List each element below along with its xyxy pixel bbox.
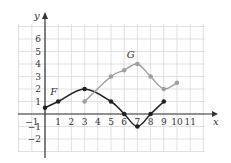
y-tick-label: 3 (35, 72, 41, 82)
curve-F (45, 89, 164, 127)
x-axis-label: x (213, 116, 219, 127)
y-tick-label: 2 (35, 84, 41, 94)
data-point (135, 62, 140, 67)
x-tick-label: 4 (95, 117, 101, 127)
data-point (148, 112, 153, 117)
x-tick-label: 8 (148, 117, 154, 127)
data-point (82, 87, 87, 92)
data-point (122, 68, 127, 73)
x-tick-label: 6 (121, 117, 127, 127)
y-tick-label: 4 (35, 59, 41, 69)
y-axis-label: y (33, 10, 40, 21)
function-graph: −11234567891011−2−1123456 FG x y (0, 0, 231, 163)
data-point (109, 74, 114, 79)
data-point (43, 105, 48, 110)
data-point (56, 99, 61, 104)
x-tick-label: 1 (55, 117, 61, 127)
data-point (148, 74, 153, 79)
grid-lines (18, 24, 205, 152)
y-tick-label: −1 (28, 122, 41, 132)
x-tick-label: 2 (69, 117, 75, 127)
data-point (135, 124, 140, 129)
y-tick-label: −2 (28, 134, 41, 144)
series-label-G: G (127, 49, 135, 60)
y-tick-label: 5 (35, 47, 41, 57)
x-tick-label: 10 (171, 117, 183, 127)
x-tick-label: 9 (161, 117, 167, 127)
data-point (109, 99, 114, 104)
data-point (162, 99, 167, 104)
axes (18, 12, 218, 158)
data-point (175, 80, 180, 85)
data-point (82, 99, 87, 104)
y-tick-label: 6 (35, 34, 41, 44)
data-point (162, 87, 167, 92)
y-axis-arrow-icon (42, 12, 48, 19)
data-point (122, 112, 127, 117)
x-tick-label: 5 (108, 117, 114, 127)
x-tick-label: 11 (184, 117, 195, 127)
series-label-F: F (49, 86, 58, 97)
curve-G (85, 64, 177, 102)
y-tick-label: 1 (35, 97, 41, 107)
x-tick-label: 3 (82, 117, 88, 127)
